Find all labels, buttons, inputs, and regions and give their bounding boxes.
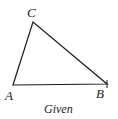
caption: Given (44, 102, 73, 116)
triangle-diagram: C A B Given (0, 0, 118, 119)
vertex-label-b: B (96, 86, 104, 101)
triangle-abc (13, 22, 107, 85)
vertex-label-a: A (4, 88, 13, 103)
vertex-label-c: C (27, 5, 36, 20)
